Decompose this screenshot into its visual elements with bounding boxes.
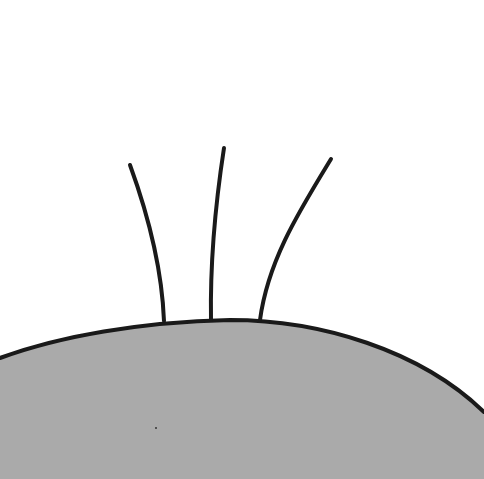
speck: [155, 427, 157, 429]
hair-left: [130, 165, 164, 321]
hair-middle: [211, 148, 224, 320]
head-dome: [0, 320, 484, 479]
hair-right: [260, 159, 331, 320]
bald-head-illustration: [0, 0, 484, 479]
